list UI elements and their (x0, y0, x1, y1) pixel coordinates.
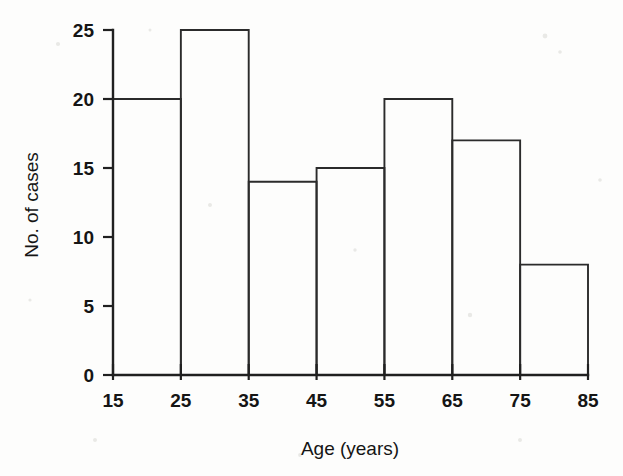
y-tick-label: 15 (73, 158, 95, 179)
x-tick-label: 35 (238, 390, 260, 411)
y-axis-title: No. of cases (21, 152, 42, 258)
histogram-figure: 0510152025 1525354555657585 Age (years) … (0, 0, 623, 476)
x-tick-label: 85 (577, 390, 599, 411)
x-tick-label: 75 (510, 390, 532, 411)
x-tick-label: 65 (442, 390, 464, 411)
y-tick-label: 20 (73, 89, 94, 110)
x-tick-label: 45 (306, 390, 328, 411)
y-tick-label: 5 (83, 296, 94, 317)
x-tick-label: 15 (102, 390, 124, 411)
x-axis-title: Age (years) (301, 438, 399, 459)
y-tick-label: 25 (73, 20, 95, 41)
x-tick-label: 55 (374, 390, 396, 411)
y-tick-label: 0 (83, 365, 94, 386)
y-tick-label: 10 (73, 227, 94, 248)
chart-canvas: 0510152025 1525354555657585 Age (years) … (0, 0, 623, 476)
x-tick-label: 25 (170, 390, 192, 411)
